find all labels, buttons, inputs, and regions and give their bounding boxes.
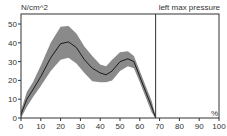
x-tick-label: 10 — [36, 122, 45, 131]
y-tick-label: 10 — [8, 95, 17, 104]
x-tick-label: 90 — [195, 122, 204, 131]
x-tick-label: 100 — [212, 122, 226, 131]
y-tick-label: 40 — [8, 39, 17, 48]
x-tick-label: 20 — [56, 122, 65, 131]
y-tick-label: 0 — [13, 114, 18, 123]
chart-title: left max pressure — [159, 3, 221, 12]
x-tick-label: 80 — [175, 122, 184, 131]
x-tick-label: 70 — [155, 122, 164, 131]
std-band-area — [21, 26, 156, 118]
pressure-chart: 010203040500102030405060708090100 N/cm^2… — [0, 0, 227, 136]
x-tick-label: 30 — [76, 122, 85, 131]
y-tick-label: 50 — [8, 20, 17, 29]
x-tick-label: 50 — [116, 122, 125, 131]
x-unit-label: % — [211, 109, 218, 118]
y-tick-label: 20 — [8, 76, 17, 85]
chart-container: 010203040500102030405060708090100 N/cm^2… — [0, 0, 227, 136]
x-tick-label: 60 — [135, 122, 144, 131]
std-band — [21, 26, 156, 118]
y-tick-label: 30 — [8, 58, 17, 67]
y-unit-label: N/cm^2 — [21, 3, 48, 12]
x-tick-label: 40 — [96, 122, 105, 131]
x-tick-label: 0 — [19, 122, 24, 131]
